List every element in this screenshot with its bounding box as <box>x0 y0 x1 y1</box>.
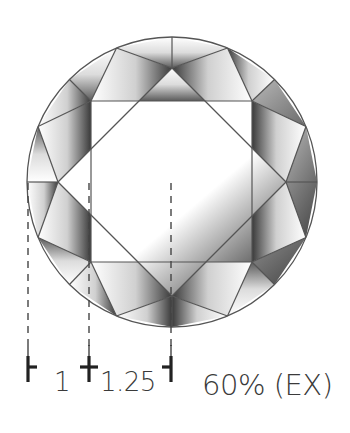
table-grade-label: 60% (EX) <box>202 371 333 400</box>
segment-1-label: 1 <box>54 369 70 395</box>
segment-2-label: 1.25 <box>100 369 156 395</box>
